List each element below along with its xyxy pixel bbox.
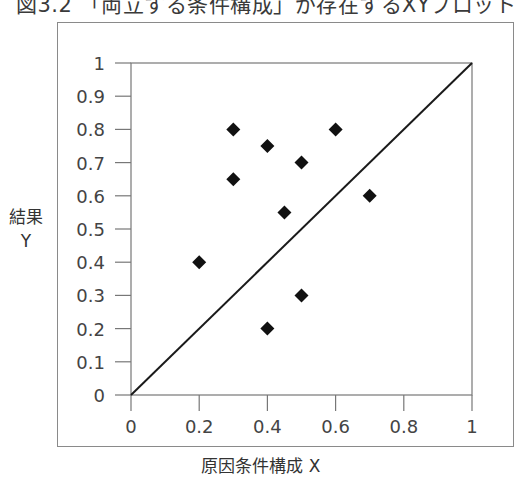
data-point-diamond-icon (295, 288, 309, 302)
data-point-diamond-icon (226, 122, 240, 136)
y-tick-label: 0.7 (76, 153, 105, 174)
data-point-diamond-icon (226, 172, 240, 186)
x-tick-label: 0.4 (253, 416, 282, 437)
y-tick-label: 0.1 (76, 352, 105, 373)
y-tick-label: 0 (94, 385, 105, 406)
x-tick-label: 0.2 (185, 416, 214, 437)
x-tick-label: 0.6 (321, 416, 350, 437)
x-tick-label: 0 (125, 416, 136, 437)
diagonal-reference-line (131, 63, 472, 395)
y-tick-label: 0.9 (76, 86, 105, 107)
x-axis-label: 原因条件構成 X (0, 452, 522, 477)
data-point-diamond-icon (260, 139, 274, 153)
x-tick-label: 0.8 (389, 416, 418, 437)
y-axis-label-var: Y (4, 229, 48, 253)
data-point-diamond-icon (192, 255, 206, 269)
data-point-diamond-icon (329, 122, 343, 136)
y-tick-label: 1 (94, 53, 105, 74)
y-tick-label: 0.3 (76, 285, 105, 306)
x-tick-label: 1 (466, 416, 477, 437)
y-tick-label: 0.5 (76, 219, 105, 240)
data-point-diamond-icon (295, 156, 309, 170)
y-tick-label: 0.4 (76, 252, 105, 273)
data-point-diamond-icon (277, 205, 291, 219)
scatter-plot: 00.10.20.30.40.50.60.70.80.9100.20.40.60… (0, 0, 522, 479)
y-axis-label: 結果 Y (4, 205, 48, 253)
y-tick-label: 0.6 (76, 186, 105, 207)
y-tick-label: 0.8 (76, 119, 105, 140)
data-point-diamond-icon (260, 322, 274, 336)
y-axis-label-text: 結果 (4, 205, 48, 229)
y-tick-label: 0.2 (76, 319, 105, 340)
data-point-diamond-icon (363, 189, 377, 203)
